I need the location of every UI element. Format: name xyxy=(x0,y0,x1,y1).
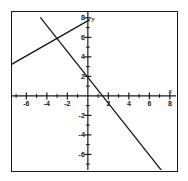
x-tick-label: 6 xyxy=(147,100,151,107)
y-tick-label: 6 xyxy=(81,34,85,41)
y-tick-label: 8 xyxy=(81,14,85,21)
x-axis-label: x xyxy=(168,87,173,95)
graph-figure: -6-4-224688642-2-4-6xy xyxy=(0,0,188,181)
graph-canvas: -6-4-224688642-2-4-6xy xyxy=(12,12,176,170)
descending-line xyxy=(41,18,166,170)
plot-frame: -6-4-224688642-2-4-6xy xyxy=(11,11,178,172)
y-tick-label: -6 xyxy=(79,151,85,158)
y-tick-label: 4 xyxy=(81,53,85,60)
y-axis-label: y xyxy=(91,15,96,23)
y-tick-label: -4 xyxy=(79,131,85,138)
y-tick-label: -2 xyxy=(79,112,85,119)
x-tick-label: 4 xyxy=(127,100,131,107)
x-tick-label: -4 xyxy=(44,100,50,107)
ascending-line xyxy=(12,20,89,64)
x-tick-label: 8 xyxy=(168,100,172,107)
x-tick-label: -6 xyxy=(23,100,29,107)
x-tick-label: -2 xyxy=(64,100,70,107)
